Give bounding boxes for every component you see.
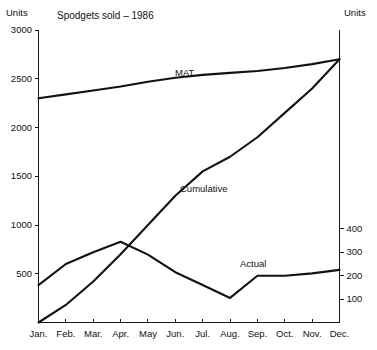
chart-plot-area [0, 0, 377, 350]
x-tick-label: Aug. [215, 329, 245, 339]
left-tick-label: 1500 [2, 171, 32, 181]
left-tick-label: 500 [2, 269, 32, 279]
x-tick-label: Jun. [160, 329, 190, 339]
right-tick-label: 100 [347, 294, 363, 304]
chart-title: Spodgets sold – 1986 [57, 11, 154, 21]
x-tick-label: Nov. [297, 329, 327, 339]
left-axis-title: Units [6, 8, 28, 18]
x-tick-label: Sep. [242, 329, 272, 339]
right-tick-label: 300 [347, 247, 363, 257]
x-tick-label: Apr. [106, 329, 136, 339]
right-axis-title: Units [344, 8, 366, 18]
x-tick-label: Jan. [24, 329, 54, 339]
right-tick-label: 400 [347, 224, 363, 234]
left-tick-label: 3000 [2, 25, 32, 35]
x-tick-label: Oct. [270, 329, 300, 339]
left-axis-ticks [35, 30, 39, 274]
series-line-mat [39, 59, 340, 98]
left-tick-label: 2500 [2, 74, 32, 84]
x-tick-label: Jul. [188, 329, 218, 339]
right-axis-ticks [340, 229, 344, 299]
left-tick-label: 1000 [2, 220, 32, 230]
series-label-actual: Actual [240, 259, 266, 269]
x-tick-label: Dec. [325, 329, 355, 339]
left-tick-label: 2000 [2, 123, 32, 133]
right-tick-label: 200 [347, 271, 363, 281]
x-tick-label: Feb. [51, 329, 81, 339]
x-tick-label: Mar. [78, 329, 108, 339]
x-axis-ticks [39, 319, 340, 323]
x-tick-label: May [133, 329, 163, 339]
chart-container: Units Units Spodgets sold – 1986 5001000… [0, 0, 377, 350]
series-label-cumulative: Cumulative [180, 184, 228, 194]
series-label-mat: MAT [175, 68, 194, 78]
